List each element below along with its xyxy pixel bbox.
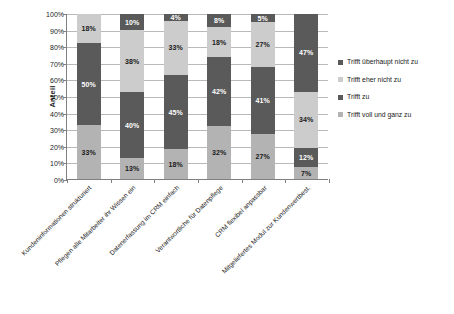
bar-segment[interactable]: 27% <box>251 134 275 179</box>
legend-label: Trifft überhaupt nicht zu <box>347 58 418 66</box>
y-axis-tick-label: 60% <box>36 77 64 84</box>
bar-slot: 18%45%33%4% <box>154 14 198 179</box>
bar-slot: 13%40%38%10% <box>111 14 155 179</box>
y-axis-tick-label: 80% <box>36 44 64 51</box>
bar-segment-value-label: 41% <box>256 97 270 104</box>
bar-segment-value-label: 34% <box>299 116 313 123</box>
bar-segment-value-label: 8% <box>214 17 224 24</box>
y-axis-tick-labels: 100%90%80%70%60%50%40%30%20%10%0% <box>36 14 64 180</box>
bar-segment-value-label: 32% <box>212 149 226 156</box>
bar-segment[interactable]: 41% <box>251 67 275 135</box>
bar-segment-value-label: 12% <box>299 154 313 161</box>
legend-label: Trifft zu <box>347 93 369 101</box>
bar-segment[interactable]: 38% <box>120 30 144 92</box>
bar-segment-value-label: 10% <box>125 19 139 26</box>
bar-segment-value-label: 18% <box>169 161 183 168</box>
bar-segment[interactable]: 47% <box>294 14 318 92</box>
bar-segment-value-label: 42% <box>212 88 226 95</box>
legend-item[interactable]: Trifft voll und ganz zu <box>338 111 454 119</box>
legend-color-swatch <box>338 95 343 100</box>
bar-slot: 32%42%18%8% <box>198 14 242 179</box>
stacked-bar[interactable]: 18%45%33%4% <box>164 14 188 179</box>
stacked-bar[interactable]: 33%50%18% <box>77 14 101 179</box>
y-axis-tick-label: 70% <box>36 60 64 67</box>
bar-segment-value-label: 33% <box>169 44 183 51</box>
y-axis-tick-label: 10% <box>36 160 64 167</box>
bar-segment[interactable]: 27% <box>251 22 275 67</box>
x-axis-category-label: Datenerfassung im CRM einfach <box>108 184 181 257</box>
bar-segment-value-label: 18% <box>82 25 96 32</box>
bar-slot: 33%50%18% <box>67 14 111 179</box>
y-axis-tick-label: 40% <box>36 110 64 117</box>
bar-segment-value-label: 33% <box>82 149 96 156</box>
legend-label: Trifft eher nicht zu <box>347 76 401 84</box>
y-axis-tick-label: 20% <box>36 143 64 150</box>
bar-segment-value-label: 40% <box>125 122 139 129</box>
bar-segment[interactable]: 12% <box>294 148 318 168</box>
bar-segment-value-label: 18% <box>212 39 226 46</box>
bar-group: 33%50%18%13%40%38%10%18%45%33%4%32%42%18… <box>67 14 328 179</box>
bar-segment[interactable]: 42% <box>207 57 231 126</box>
bar-slot: 7%12%34%47% <box>285 14 329 179</box>
bar-segment-value-label: 50% <box>82 81 96 88</box>
bar-segment[interactable]: 13% <box>120 158 144 179</box>
stacked-bar-chart: Anteil 100%90%80%70%60%50%40%30%20%10%0%… <box>0 0 454 314</box>
bar-segment-value-label: 13% <box>125 165 139 172</box>
legend-label: Trifft voll und ganz zu <box>347 111 411 119</box>
x-axis-category-label: Mitgeliefertes Modul zur Kundenwertbest. <box>220 184 311 275</box>
stacked-bar[interactable]: 27%41%27%5% <box>251 14 275 179</box>
bar-segment[interactable]: 32% <box>207 126 231 179</box>
y-axis-tick-label: 90% <box>36 27 64 34</box>
bar-segment-value-label: 45% <box>169 109 183 116</box>
plot-area: 33%50%18%13%40%38%10%18%45%33%4%32%42%18… <box>66 14 328 180</box>
bar-segment[interactable]: 7% <box>294 167 318 179</box>
chart-legend: Trifft überhaupt nicht zuTrifft eher nic… <box>338 58 454 128</box>
x-axis-category-labels: Kundeninformationen strukturiertPflegen … <box>66 182 328 312</box>
bar-segment[interactable]: 8% <box>207 14 231 27</box>
bar-segment[interactable]: 34% <box>294 92 318 148</box>
y-axis-tick-label: 50% <box>36 94 64 101</box>
bar-segment-value-label: 38% <box>125 58 139 65</box>
stacked-bar[interactable]: 32%42%18%8% <box>207 14 231 179</box>
legend-item[interactable]: Trifft überhaupt nicht zu <box>338 58 454 66</box>
y-axis-tick-label: 100% <box>36 11 64 18</box>
legend-color-swatch <box>338 77 343 82</box>
bar-slot: 27%41%27%5% <box>241 14 285 179</box>
x-axis-category-label: Pflegen alle Mitarbeiter ihr Wissen ein <box>53 184 137 268</box>
bar-segment[interactable]: 50% <box>77 43 101 125</box>
x-axis-category-label: Kundeninformationen strukturiert <box>20 184 93 257</box>
legend-item[interactable]: Trifft eher nicht zu <box>338 76 454 84</box>
legend-color-swatch <box>338 60 343 65</box>
bar-segment[interactable]: 10% <box>120 14 144 30</box>
stacked-bar[interactable]: 7%12%34%47% <box>294 14 318 179</box>
bar-segment-value-label: 47% <box>299 49 313 56</box>
bar-segment[interactable]: 45% <box>164 75 188 149</box>
y-axis-tick-label: 30% <box>36 127 64 134</box>
legend-item[interactable]: Trifft zu <box>338 93 454 101</box>
y-axis-tick-label: 0% <box>36 177 64 184</box>
bar-segment-value-label: 7% <box>301 170 311 177</box>
legend-color-swatch <box>338 112 343 117</box>
bar-segment-value-label: 4% <box>171 14 181 21</box>
bar-segment[interactable]: 33% <box>77 125 101 179</box>
bar-segment[interactable]: 4% <box>164 14 188 21</box>
bar-segment[interactable]: 18% <box>77 14 101 43</box>
bar-segment-value-label: 27% <box>256 153 270 160</box>
x-axis-tick-mark <box>329 179 330 183</box>
bar-segment[interactable]: 18% <box>207 27 231 57</box>
bar-segment[interactable]: 18% <box>164 149 188 179</box>
bar-segment[interactable]: 33% <box>164 21 188 75</box>
bar-segment-value-label: 27% <box>256 41 270 48</box>
bar-segment[interactable]: 5% <box>251 14 275 22</box>
bar-segment-value-label: 5% <box>258 15 268 22</box>
stacked-bar[interactable]: 13%40%38%10% <box>120 14 144 179</box>
bar-segment[interactable]: 40% <box>120 92 144 157</box>
